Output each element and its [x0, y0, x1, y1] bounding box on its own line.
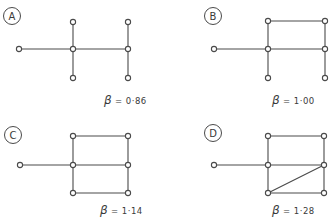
- panel-c-label: C: [10, 130, 17, 141]
- graph-node: [211, 162, 216, 167]
- panel-a-beta-caption: β = 0·86: [103, 93, 147, 107]
- graph-node: [70, 19, 75, 24]
- beta-value: = 1·28: [283, 206, 315, 216]
- beta-value: = 0·86: [115, 96, 147, 106]
- panel-a: A β = 0·86: [4, 8, 147, 108]
- graph-node: [322, 46, 327, 51]
- graph-node: [125, 133, 130, 138]
- beta-symbol: β: [271, 203, 280, 217]
- graph-node: [16, 46, 21, 51]
- panel-d-badge: D: [205, 125, 222, 142]
- panel-b-beta-caption: β = 1·00: [271, 93, 315, 107]
- panel-c-beta-caption: β = 1·14: [99, 203, 143, 217]
- graph-node: [321, 190, 326, 195]
- graph-node: [265, 18, 270, 23]
- beta-value: = 1·00: [283, 96, 315, 106]
- panel-a-badge: A: [4, 8, 21, 25]
- graph-node: [321, 133, 326, 138]
- graph-node: [70, 75, 75, 80]
- graph-node: [70, 162, 75, 167]
- beta-symbol: β: [271, 93, 280, 107]
- graph-node: [125, 19, 130, 24]
- graph-node: [322, 18, 327, 23]
- panel-b-badge: B: [205, 8, 222, 25]
- graph-edge: [268, 165, 324, 193]
- graph-node: [70, 190, 75, 195]
- graph-node: [321, 162, 326, 167]
- panel-d: D β = 1·28: [205, 125, 327, 218]
- panel-d-label: D: [209, 128, 217, 139]
- beta-symbol: β: [103, 93, 112, 107]
- graph-node: [265, 162, 270, 167]
- panel-b: B β = 1·00: [205, 8, 328, 108]
- graph-node: [125, 162, 130, 167]
- panel-a-label: A: [9, 11, 16, 22]
- graph-node: [211, 46, 216, 51]
- graph-node: [265, 75, 270, 80]
- graph-node: [265, 46, 270, 51]
- beta-symbol: β: [99, 203, 108, 217]
- beta-value: = 1·14: [111, 206, 143, 216]
- panel-b-label: B: [210, 11, 217, 22]
- panel-c: C β = 1·14: [5, 127, 143, 218]
- graph-node: [125, 75, 130, 80]
- graph-node: [125, 190, 130, 195]
- graph-node: [265, 190, 270, 195]
- graph-node: [125, 46, 130, 51]
- graph-node: [322, 75, 327, 80]
- graph-node: [265, 133, 270, 138]
- panel-d-beta-caption: β = 1·28: [271, 203, 315, 217]
- graph-node: [70, 46, 75, 51]
- panel-c-badge: C: [5, 127, 22, 144]
- graph-node: [70, 133, 75, 138]
- graph-node: [17, 162, 22, 167]
- beta-index-graph-figure: A β = 0·86 B β = 1·00 C β = 1·14: [0, 0, 334, 222]
